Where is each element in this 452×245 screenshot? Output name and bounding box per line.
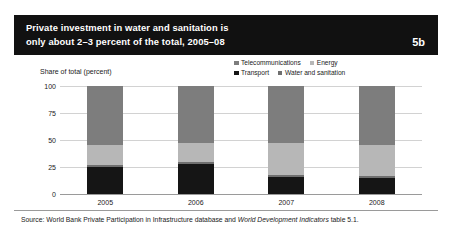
bar-segment-energy bbox=[178, 143, 214, 161]
x-axis-tick-label: 2007 bbox=[278, 199, 294, 206]
bar-segment-telecommunications bbox=[178, 86, 214, 143]
figure-number-badge: 5b bbox=[412, 36, 425, 48]
legend-label: Telecommunications bbox=[241, 59, 301, 67]
title-line-1: Private investment in water and sanitati… bbox=[26, 21, 356, 35]
title-line-2: only about 2–3 percent of the total, 200… bbox=[26, 35, 356, 49]
bar-2006 bbox=[178, 86, 214, 194]
y-axis-tick-label: 75 bbox=[48, 110, 56, 117]
bar-2008 bbox=[359, 86, 395, 194]
source-note: Source: World Bank Private Participation… bbox=[21, 216, 359, 223]
bar-segment-telecommunications bbox=[268, 86, 304, 143]
legend-label: Transport bbox=[241, 69, 269, 77]
x-axis-tick-label: 2005 bbox=[97, 199, 113, 206]
legend-row: TelecommunicationsEnergy bbox=[234, 59, 434, 67]
x-axis-tick-label: 2008 bbox=[369, 199, 385, 206]
source-italic-title: World Development Indicators bbox=[238, 216, 329, 223]
figure-panel-5b: Private investment in water and sanitati… bbox=[0, 0, 452, 245]
source-prefix: Source: World Bank Private Participation… bbox=[21, 216, 238, 223]
header-band: Private investment in water and sanitati… bbox=[14, 15, 438, 55]
legend-label: Water and sanitation bbox=[285, 69, 345, 77]
legend-item-transport: Transport bbox=[234, 69, 269, 77]
legend-item-water-and-sanitation: Water and sanitation bbox=[278, 69, 345, 77]
chart-legend: TelecommunicationsEnergyTransportWater a… bbox=[234, 59, 434, 79]
legend-swatch-icon bbox=[234, 71, 239, 76]
legend-swatch-icon bbox=[278, 71, 283, 76]
bar-segment-telecommunications bbox=[359, 86, 395, 145]
gridline: 0 bbox=[60, 194, 422, 195]
bar-segment-transport bbox=[87, 167, 123, 194]
bar-segment-energy bbox=[359, 145, 395, 175]
bar-segment-transport bbox=[359, 178, 395, 194]
chart-panel: TelecommunicationsEnergyTransportWater a… bbox=[14, 55, 438, 210]
bar-segment-transport bbox=[268, 177, 304, 194]
bar-2007 bbox=[268, 86, 304, 194]
legend-row: TransportWater and sanitation bbox=[234, 69, 434, 77]
legend-label: Energy bbox=[317, 59, 338, 67]
y-axis-tick-label: 100 bbox=[44, 83, 56, 90]
legend-item-energy: Energy bbox=[310, 59, 338, 67]
source-suffix: table 5.1. bbox=[329, 216, 359, 223]
bar-segment-energy bbox=[268, 143, 304, 174]
legend-item-telecommunications: Telecommunications bbox=[234, 59, 301, 67]
bar-2005 bbox=[87, 86, 123, 194]
bar-segment-transport bbox=[178, 164, 214, 194]
bar-segment-telecommunications bbox=[87, 86, 123, 145]
y-axis-tick-label: 0 bbox=[52, 191, 56, 198]
y-axis-tick-label: 25 bbox=[48, 164, 56, 171]
plot-area: 10075502502005200620072008 bbox=[60, 86, 422, 194]
x-axis-tick-label: 2006 bbox=[188, 199, 204, 206]
y-axis-tick-label: 50 bbox=[48, 137, 56, 144]
y-axis-title: Share of total (percent) bbox=[40, 68, 112, 75]
legend-swatch-icon bbox=[234, 61, 239, 66]
bar-segment-energy bbox=[87, 145, 123, 164]
legend-swatch-icon bbox=[310, 61, 315, 66]
source-divider bbox=[14, 210, 438, 211]
page-title: Private investment in water and sanitati… bbox=[26, 21, 356, 48]
